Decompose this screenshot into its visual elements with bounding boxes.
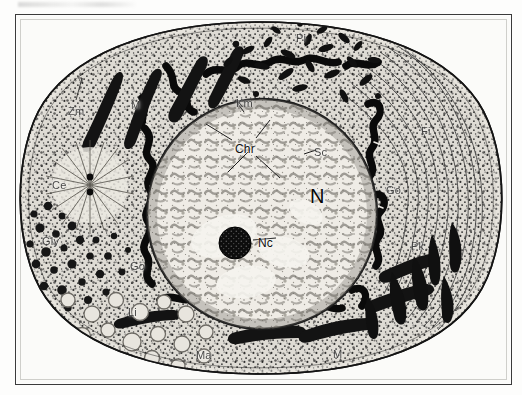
label-chr: Chr bbox=[235, 143, 255, 155]
figure-page: ZmMCeGlyGoLiMaMPiKmChrScNNcFiGoPk bbox=[0, 0, 522, 395]
label-go2: Go bbox=[130, 261, 145, 272]
label-nc: Nc bbox=[258, 237, 273, 249]
label-li: Li bbox=[128, 307, 137, 318]
cell-diagram bbox=[0, 0, 522, 395]
label-ce: Ce bbox=[52, 180, 66, 191]
label-pk: Pk bbox=[411, 241, 424, 252]
label-n: N bbox=[310, 186, 325, 206]
label-sc: Sc bbox=[314, 147, 327, 158]
label-fi: Fi bbox=[421, 126, 431, 137]
label-gly: Gly bbox=[42, 236, 59, 247]
nucleolus bbox=[219, 227, 251, 259]
label-m2: M bbox=[333, 349, 342, 360]
label-km: Km bbox=[236, 98, 253, 109]
label-zm: Zm bbox=[68, 106, 84, 117]
label-go1: Go bbox=[386, 185, 401, 196]
centriole-body-1 bbox=[87, 174, 94, 181]
label-ma: Ma bbox=[196, 350, 212, 361]
label-pi: Pi bbox=[296, 33, 306, 44]
label-m1: M bbox=[131, 100, 140, 111]
centriole-body-2 bbox=[87, 189, 94, 196]
nucleus bbox=[147, 99, 377, 329]
